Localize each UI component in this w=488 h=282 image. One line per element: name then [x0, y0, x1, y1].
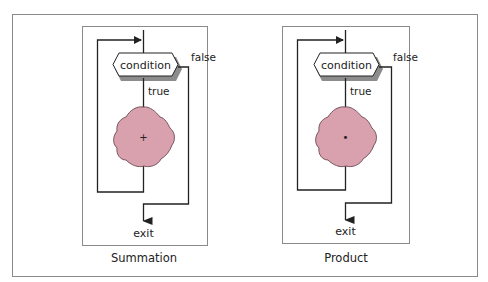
false-label: false	[191, 51, 216, 63]
true-label: true	[350, 85, 372, 97]
exit-label: exit	[133, 227, 154, 240]
product-caption: Product	[324, 251, 368, 265]
exit-label: exit	[335, 225, 356, 238]
loop-diagrams-figure: condition false true + exit Summation co…	[0, 0, 488, 282]
condition-label: condition	[120, 59, 171, 72]
false-label: false	[393, 51, 418, 63]
condition-label: condition	[321, 59, 372, 72]
product-panel: condition false true • exit	[283, 27, 418, 244]
summation-panel: condition false true + exit	[83, 27, 216, 246]
true-label: true	[148, 85, 170, 97]
operator-mark: •	[343, 132, 349, 143]
operator-mark: +	[139, 132, 147, 143]
summation-caption: Summation	[111, 251, 177, 265]
